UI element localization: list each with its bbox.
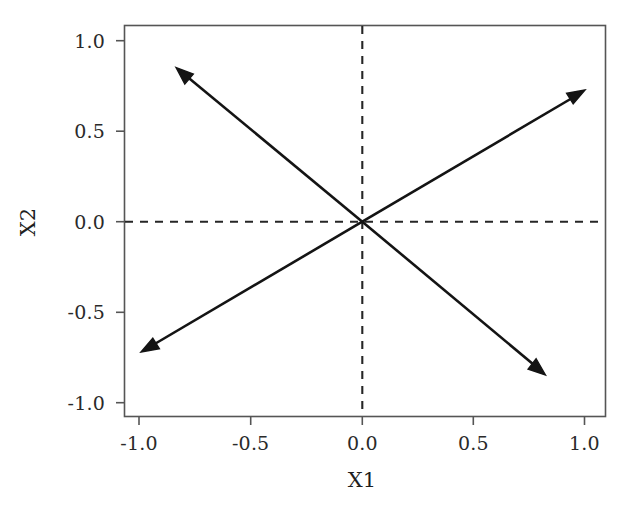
y-axis-title: X2 xyxy=(16,208,40,236)
y-tick-label-0.0: 0.0 xyxy=(40,211,105,233)
y-tick-label--1.0: -1.0 xyxy=(40,392,105,414)
vector-upper-left xyxy=(176,68,362,222)
x-tick-label-0.5: 0.5 xyxy=(458,432,489,454)
vector-lower-left xyxy=(141,222,362,352)
vector-lower-right xyxy=(362,222,545,375)
y-axis-ticks xyxy=(116,41,125,403)
x-tick-label-1.0: 1.0 xyxy=(569,432,600,454)
figure-canvas: 1.0 0.5 0.0 -0.5 -1.0 -1.0 -0.5 0.0 0.5 … xyxy=(0,0,630,508)
x-tick-label-0.0: 0.0 xyxy=(347,432,378,454)
x-tick-label--1.0: -1.0 xyxy=(120,432,157,454)
y-tick-label-1.0: 1.0 xyxy=(40,30,105,52)
x-tick-label--0.5: -0.5 xyxy=(232,432,269,454)
y-tick-label-0.5: 0.5 xyxy=(40,120,105,142)
plot-area-svg xyxy=(0,0,630,508)
vector-upper-right xyxy=(362,90,585,222)
y-tick-label--0.5: -0.5 xyxy=(40,301,105,323)
x-axis-ticks xyxy=(139,417,585,426)
x-axis-title: X1 xyxy=(348,468,376,492)
